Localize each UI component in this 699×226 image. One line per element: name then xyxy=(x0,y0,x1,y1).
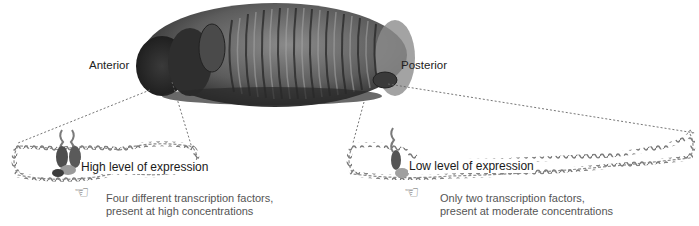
left-note: Four different transcription factors, pr… xyxy=(106,192,273,218)
right-note-line1: Only two transcription factors, xyxy=(440,192,613,205)
left-note-line2: present at high concentrations xyxy=(106,205,273,218)
high-expression-label: High level of expression xyxy=(80,160,209,174)
anterior-label: Anterior xyxy=(89,59,129,71)
embryo-image xyxy=(136,3,415,107)
left-note-line1: Four different transcription factors, xyxy=(106,192,273,205)
low-expression-label: Low level of expression xyxy=(408,159,535,173)
right-note-line2: present at moderate concentrations xyxy=(440,205,613,218)
posterior-label: Posterior xyxy=(401,59,447,71)
pointing-hand-icon: ☜ xyxy=(404,184,419,201)
pointing-hand-icon: ☜ xyxy=(74,184,89,201)
right-note: Only two transcription factors, present … xyxy=(440,192,613,218)
transcription-factors-right xyxy=(391,150,409,178)
figure: Anterior Posterior High level of express… xyxy=(0,0,699,226)
